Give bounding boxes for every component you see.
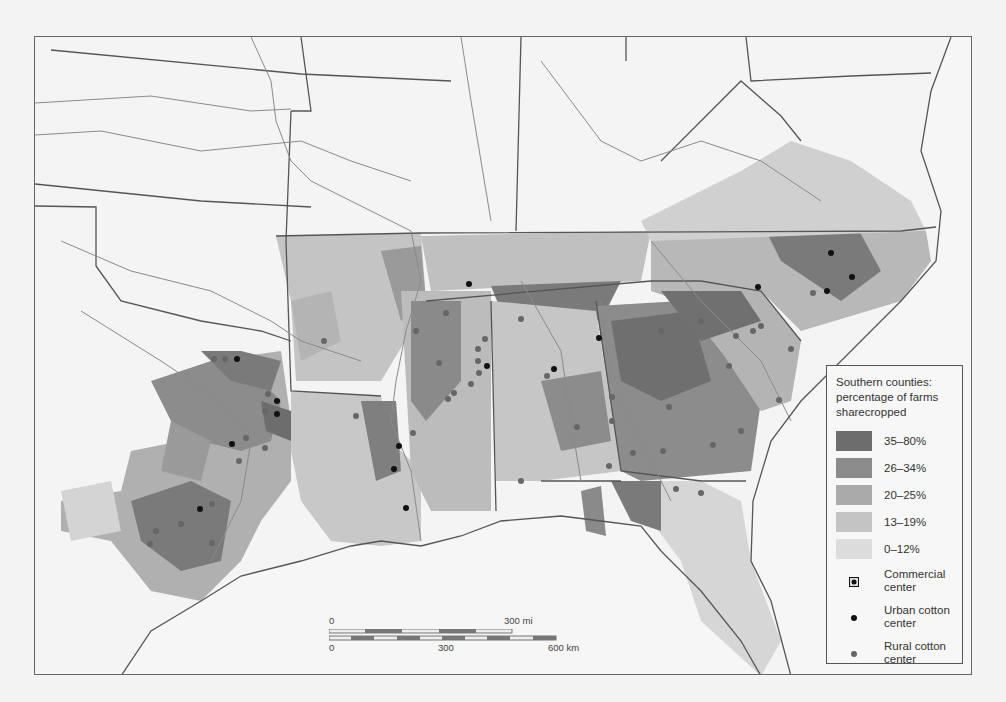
commercial-center-icon bbox=[836, 568, 872, 596]
legend-class-row: 13–19% bbox=[836, 508, 954, 535]
legend-symbol-row: Rural cotton center bbox=[836, 640, 954, 675]
legend-label: 0–12% bbox=[884, 543, 920, 555]
scale-mi-end: 300 mi bbox=[504, 615, 533, 626]
map-legend: Southern counties: percentage of farms s… bbox=[826, 365, 963, 664]
legend-label: Commercial center bbox=[884, 568, 954, 594]
legend-class-row: 26–34% bbox=[836, 454, 954, 481]
legend-label: 20–25% bbox=[884, 489, 926, 501]
swatch-0-12 bbox=[836, 539, 872, 559]
urban-cotton-center-icon bbox=[836, 604, 872, 632]
swatch-20-25 bbox=[836, 485, 872, 505]
scale-bar: 0 300 mi 0 300 600 km bbox=[326, 612, 586, 652]
legend-label: 35–80% bbox=[884, 435, 926, 447]
scale-km-zero: 0 bbox=[329, 642, 334, 653]
scale-bars bbox=[329, 629, 569, 643]
legend-class-row: 20–25% bbox=[836, 481, 954, 508]
rural-cotton-center-icon bbox=[836, 640, 872, 668]
legend-label: 13–19% bbox=[884, 516, 926, 528]
legend-label: Urban cotton center bbox=[884, 604, 954, 630]
swatch-13-19 bbox=[836, 512, 872, 532]
scale-km-mid: 300 bbox=[438, 642, 454, 653]
legend-symbol-row: Commercial center bbox=[836, 568, 954, 603]
legend-class-row: 0–12% bbox=[836, 535, 954, 562]
legend-title: Southern counties: percentage of farms s… bbox=[836, 375, 954, 420]
swatch-26-34 bbox=[836, 458, 872, 478]
scale-mi-zero: 0 bbox=[329, 615, 334, 626]
legend-symbol-row: Urban cotton center bbox=[836, 604, 954, 639]
scale-km-end: 600 km bbox=[548, 642, 579, 653]
legend-label: Rural cotton center bbox=[884, 640, 954, 666]
legend-label: 26–34% bbox=[884, 462, 926, 474]
swatch-35-80 bbox=[836, 431, 872, 451]
legend-class-row: 35–80% bbox=[836, 427, 954, 454]
